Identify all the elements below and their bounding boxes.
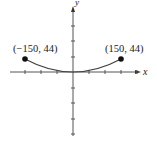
point-left-label: (−150, 44) bbox=[13, 43, 58, 55]
point-right-label: (150, 44) bbox=[105, 43, 144, 55]
point-right bbox=[118, 56, 124, 62]
x-axis-arrow-icon bbox=[135, 70, 141, 74]
y-axis-label: y bbox=[74, 0, 79, 7]
x-axis-label: x bbox=[142, 66, 148, 77]
parabola-diagram: x y (−150, 44) (150, 44) bbox=[0, 0, 157, 142]
point-left bbox=[22, 56, 28, 62]
